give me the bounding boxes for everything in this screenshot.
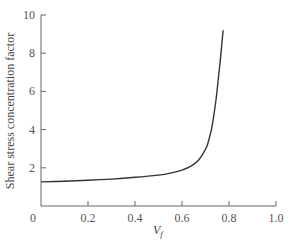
x-tick-label: 0.8 bbox=[222, 211, 237, 225]
x-tick-label: 0.2 bbox=[81, 211, 96, 225]
y-axis-ticks: 246810 bbox=[23, 8, 46, 175]
chart: 00.20.40.60.81.0 246810 Shear stress con… bbox=[0, 0, 300, 240]
y-tick-label: 2 bbox=[29, 161, 35, 175]
x-tick-label: 0 bbox=[30, 211, 36, 225]
x-axis-ticks: 00.20.40.60.81.0 bbox=[30, 201, 284, 225]
series-line bbox=[41, 30, 223, 182]
y-axis-title: Shear stress concentration factor bbox=[3, 33, 17, 189]
x-tick-label: 0.4 bbox=[128, 211, 143, 225]
x-axis-title: Vf bbox=[153, 223, 164, 239]
axes bbox=[41, 15, 276, 206]
data-series bbox=[41, 30, 223, 182]
x-axis-title-subscript: f bbox=[160, 229, 164, 239]
y-tick-label: 4 bbox=[29, 123, 35, 137]
x-tick-label: 0.6 bbox=[175, 211, 190, 225]
y-tick-label: 8 bbox=[29, 46, 35, 60]
y-tick-label: 6 bbox=[29, 84, 35, 98]
x-tick-label: 1.0 bbox=[269, 211, 284, 225]
y-tick-label: 10 bbox=[23, 8, 35, 22]
